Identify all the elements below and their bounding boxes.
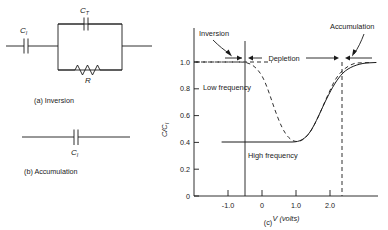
capacitor-ci-label-b: CI	[71, 148, 79, 158]
circuit-a-inversion	[6, 18, 152, 76]
resistor-r-label: R	[85, 76, 91, 85]
inversion-arrow-head	[226, 50, 233, 57]
circuit-a-labels: CI CT R (a) Inversion	[20, 6, 91, 105]
y-tick-label-0.8: 0.8	[180, 84, 190, 93]
x-tick-label-1.0: 1.0	[291, 201, 301, 210]
y-tick-label-0: 0	[186, 192, 190, 201]
x-tick-label-2.0: 2.0	[325, 201, 335, 210]
mos-capacitance-figure: CI CT R (a) Inversion CI (b) Accumulatio…	[0, 0, 388, 230]
y-tick-label-0.4: 0.4	[180, 138, 190, 147]
circuit-b-accumulation	[22, 130, 130, 146]
inversion-label: Inversion	[199, 29, 229, 38]
y-tick-labels: 0 0.2 0.4 0.6 0.8 1.0	[180, 58, 190, 201]
figure-canvas: CI CT R (a) Inversion CI (b) Accumulatio…	[0, 0, 388, 230]
capacitor-ci-label: CI	[20, 26, 28, 36]
arrowhead-right-inward	[334, 56, 339, 61]
circuit-b-labels: CI (b) Accumulation	[24, 148, 79, 176]
y-axis-label: C/CI	[160, 122, 170, 137]
high-frequency-label: High frequency	[248, 151, 298, 160]
accumulation-label: Accumulation	[330, 22, 374, 31]
reference-lines	[194, 41, 342, 196]
y-tick-label-1.0: 1.0	[180, 58, 190, 67]
accumulation-arrow	[352, 34, 364, 57]
circuit-a-caption: (a) Inversion	[34, 96, 74, 105]
depletion-label: Depletion	[268, 54, 299, 63]
y-tick-label-0.6: 0.6	[180, 111, 190, 120]
low-frequency-label: Low frequency	[203, 83, 251, 92]
x-axis-label: V (volts)	[272, 214, 300, 223]
figure-c-caption: (c)	[264, 218, 272, 227]
circuit-b-caption: (b) Accumulation	[24, 167, 78, 176]
x-tick-labels: -1.0 0 1.0 2.0	[222, 201, 335, 210]
inversion-arrow	[213, 40, 232, 56]
arrowhead-left-inward	[237, 56, 242, 61]
x-tick-label-0: 0	[260, 201, 264, 210]
x-tick-label--1.0: -1.0	[222, 201, 234, 210]
capacitor-ct-label: CT	[80, 6, 90, 16]
low-frequency-curve	[196, 62, 372, 142]
y-tick-label-0.2: 0.2	[180, 165, 190, 174]
